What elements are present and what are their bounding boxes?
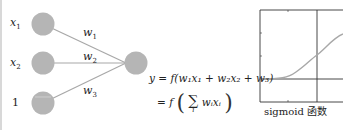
input-label-x1: x1 (10, 16, 21, 31)
input-node-x1 (32, 13, 55, 36)
bias-node (32, 92, 55, 115)
input-label-x2: x2 (10, 56, 21, 71)
input-label-bias: 1 (12, 96, 19, 109)
sigmoid-plot (260, 10, 343, 102)
equation-line-1: y = f(w₁x₁ + w₂x₂ + w₃) (149, 72, 273, 84)
weight-label-w3: w3 (83, 84, 97, 99)
plot-caption: sigmoid 函数 (264, 103, 327, 118)
weight-label-w2: w2 (83, 50, 97, 65)
weight-label-w1: w1 (83, 26, 97, 41)
equation-line-2: = f ( ∑ i wᵢxᵢ ) (157, 90, 233, 115)
output-node (125, 52, 148, 75)
input-node-x2 (32, 52, 55, 75)
